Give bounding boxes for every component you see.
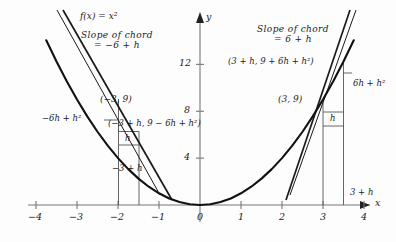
- x-tick-label-1: 1: [238, 212, 244, 222]
- x-axis-label: x: [375, 198, 380, 208]
- x-tick-label-3: 3: [320, 212, 326, 222]
- left-run-label: h: [125, 134, 130, 143]
- parabola-secant-tangent-figure: f(x) = x² Slope of chord = −6 + h Slope …: [0, 0, 396, 242]
- right-secant-point-label: (3 + h, 9 + 6h + h²): [228, 57, 314, 66]
- function-label: f(x) = x²: [80, 12, 117, 22]
- left-secant-point-label: (−3 + h, 9 − 6h + h²): [108, 119, 201, 128]
- right-rise-label: 6h + h²: [353, 79, 385, 88]
- x-tick-label--1: −1: [151, 212, 165, 222]
- right-base-label: 3 + h: [350, 188, 373, 197]
- y-axis-label: y: [206, 12, 211, 22]
- left-rise-label: −6h + h²: [42, 114, 81, 123]
- left-slope-of-chord-label: Slope of chord = −6 + h: [62, 31, 172, 51]
- right-run-label: h: [330, 114, 335, 123]
- right-construction-lines: [323, 61, 352, 205]
- x-tick-label-4: 4: [361, 212, 367, 222]
- left-construction-lines: [104, 99, 139, 205]
- y-axis-arrowhead: [196, 12, 204, 23]
- y-tick-label-4: 4: [184, 152, 190, 162]
- y-tick-label-8: 8: [184, 105, 190, 115]
- x-tick-label--2: −2: [110, 212, 124, 222]
- left-point-label: (−3, 9): [100, 95, 132, 105]
- x-tick-label-0: 0: [197, 212, 203, 222]
- left-base-label: −3 + h: [112, 164, 143, 173]
- right-slope-of-chord-label: Slope of chord = 6 + h: [237, 25, 349, 45]
- right-point-label: (3, 9): [278, 95, 302, 105]
- y-tick-label-12: 12: [179, 58, 191, 68]
- x-tick-label--3: −3: [69, 212, 83, 222]
- x-tick-label--4: −4: [28, 212, 42, 222]
- x-tick-label-2: 2: [279, 212, 285, 222]
- x-axis-arrowhead: [360, 201, 370, 209]
